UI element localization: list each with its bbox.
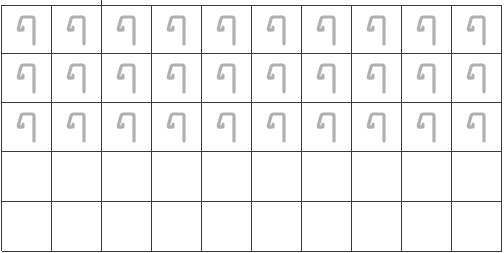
trace-cell xyxy=(352,54,402,103)
trace-cell xyxy=(452,103,502,152)
hook-letter-glyph-icon xyxy=(412,110,442,144)
blank-writing-cell xyxy=(252,202,302,252)
trace-cell xyxy=(102,54,152,103)
trace-cell xyxy=(152,103,202,152)
trace-cell xyxy=(402,6,452,54)
trace-cell xyxy=(302,103,352,152)
trace-cell xyxy=(352,103,402,152)
hook-letter-glyph-icon xyxy=(62,110,92,144)
hook-letter-glyph-icon xyxy=(262,110,292,144)
trace-cell xyxy=(452,54,502,103)
trace-cell xyxy=(102,6,152,54)
hook-letter-glyph-icon xyxy=(62,61,92,95)
blank-writing-cell xyxy=(202,202,252,252)
blank-writing-cell xyxy=(452,202,502,252)
practice-grid xyxy=(1,5,502,251)
hook-letter-glyph-icon xyxy=(212,13,242,47)
trace-cell xyxy=(252,6,302,54)
trace-cell xyxy=(2,6,52,54)
hook-letter-glyph-icon xyxy=(162,13,192,47)
trace-cell xyxy=(52,6,102,54)
hook-letter-glyph-icon xyxy=(312,110,342,144)
trace-cell xyxy=(202,103,252,152)
blank-writing-cell xyxy=(352,152,402,202)
trace-cell xyxy=(102,103,152,152)
hook-letter-glyph-icon xyxy=(12,110,42,144)
trace-cell xyxy=(252,103,302,152)
blank-writing-cell xyxy=(452,152,502,202)
blank-writing-cell xyxy=(302,152,352,202)
trace-cell xyxy=(52,54,102,103)
blank-writing-cell xyxy=(302,202,352,252)
trace-cell xyxy=(252,54,302,103)
trace-cell xyxy=(2,54,52,103)
trace-cell xyxy=(152,6,202,54)
hook-letter-glyph-icon xyxy=(262,13,292,47)
blank-writing-cell xyxy=(52,202,102,252)
hook-letter-glyph-icon xyxy=(462,13,492,47)
blank-writing-cell xyxy=(102,152,152,202)
hook-letter-glyph-icon xyxy=(462,110,492,144)
trace-cell xyxy=(202,54,252,103)
blank-writing-cell xyxy=(2,152,52,202)
blank-writing-cell xyxy=(152,152,202,202)
hook-letter-glyph-icon xyxy=(12,13,42,47)
hook-letter-glyph-icon xyxy=(62,13,92,47)
hook-letter-glyph-icon xyxy=(212,61,242,95)
blank-writing-cell xyxy=(402,202,452,252)
handwriting-practice-sheet xyxy=(0,0,504,253)
hook-letter-glyph-icon xyxy=(162,110,192,144)
blank-writing-cell xyxy=(252,152,302,202)
trace-cell xyxy=(402,103,452,152)
hook-letter-glyph-icon xyxy=(412,13,442,47)
hook-letter-glyph-icon xyxy=(362,61,392,95)
hook-letter-glyph-icon xyxy=(112,13,142,47)
trace-cell xyxy=(302,54,352,103)
hook-letter-glyph-icon xyxy=(112,61,142,95)
blank-writing-cell xyxy=(52,152,102,202)
hook-letter-glyph-icon xyxy=(112,110,142,144)
blank-writing-cell xyxy=(2,202,52,252)
hook-letter-glyph-icon xyxy=(312,13,342,47)
trace-cell xyxy=(302,6,352,54)
blank-writing-cell xyxy=(102,202,152,252)
hook-letter-glyph-icon xyxy=(412,61,442,95)
hook-letter-glyph-icon xyxy=(312,61,342,95)
trace-cell xyxy=(452,6,502,54)
blank-writing-cell xyxy=(202,152,252,202)
hook-letter-glyph-icon xyxy=(462,61,492,95)
hook-letter-glyph-icon xyxy=(212,110,242,144)
trace-cell xyxy=(352,6,402,54)
trace-cell xyxy=(202,6,252,54)
blank-writing-cell xyxy=(352,202,402,252)
trace-cell xyxy=(52,103,102,152)
hook-letter-glyph-icon xyxy=(262,61,292,95)
hook-letter-glyph-icon xyxy=(12,61,42,95)
blank-writing-cell xyxy=(152,202,202,252)
trace-cell xyxy=(402,54,452,103)
trace-cell xyxy=(152,54,202,103)
hook-letter-glyph-icon xyxy=(362,13,392,47)
trace-cell xyxy=(2,103,52,152)
hook-letter-glyph-icon xyxy=(162,61,192,95)
hook-letter-glyph-icon xyxy=(362,110,392,144)
blank-writing-cell xyxy=(402,152,452,202)
